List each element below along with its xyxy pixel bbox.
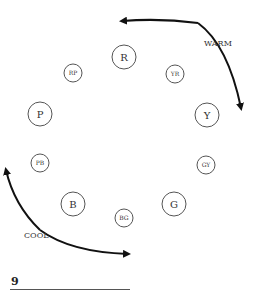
warm-label: WARM bbox=[204, 39, 232, 48]
svg-text:YR: YR bbox=[170, 70, 180, 77]
svg-text:GY: GY bbox=[202, 161, 212, 168]
svg-text:R: R bbox=[120, 52, 128, 63]
footer-rule bbox=[10, 289, 130, 290]
color-node-p: P bbox=[28, 102, 52, 126]
svg-text:P: P bbox=[37, 109, 44, 120]
svg-text:B: B bbox=[69, 199, 76, 210]
svg-text:Y: Y bbox=[203, 110, 211, 121]
svg-text:RP: RP bbox=[69, 69, 78, 76]
color-node-r: R bbox=[112, 45, 136, 69]
svg-text:G: G bbox=[170, 199, 178, 210]
cool-label: COOL bbox=[24, 231, 49, 240]
color-node-pb: PB bbox=[31, 154, 49, 172]
svg-text:BG: BG bbox=[119, 214, 129, 221]
svg-text:PB: PB bbox=[36, 159, 45, 166]
color-wheel-diagram: RYRYGYGBGBPBPRP WARM COOL bbox=[0, 0, 259, 292]
color-node-y: Y bbox=[195, 103, 219, 127]
warm-arrow bbox=[198, 23, 241, 108]
color-node-yr: YR bbox=[166, 65, 184, 83]
page-number: 9 bbox=[11, 275, 19, 288]
color-node-b: B bbox=[61, 192, 85, 216]
warm-arrow-head-start bbox=[122, 20, 198, 23]
color-node-g: G bbox=[162, 192, 186, 216]
cool-arrow-head-start bbox=[6, 170, 40, 230]
color-node-gy: GY bbox=[197, 156, 215, 174]
color-node-rp: RP bbox=[64, 64, 82, 82]
color-node-bg: BG bbox=[115, 209, 133, 227]
color-nodes: RYRYGYGBGBPBPRP bbox=[28, 45, 219, 227]
cool-arrow bbox=[40, 230, 128, 254]
